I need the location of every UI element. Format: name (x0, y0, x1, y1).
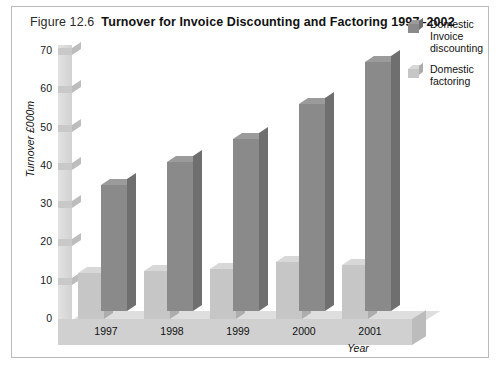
y-axis-tick-label: 10 (26, 274, 52, 286)
x-axis-tick-label-1997: 1997 (76, 325, 136, 337)
y-axis-tick-label: 50 (26, 121, 52, 133)
y-axis-tick (58, 163, 72, 170)
y-axis-tick-cap (72, 233, 81, 246)
legend-item-factoring[interactable]: Domesticfactoring (408, 64, 490, 88)
bar-front-face (365, 62, 391, 311)
y-axis-tick-cap (72, 157, 81, 170)
y-axis-tick-label: 60 (26, 82, 52, 94)
y-axis-tick-cap (72, 195, 81, 208)
bar-invoice-discounting-2000 (299, 104, 325, 311)
bar-front-face (299, 104, 325, 311)
legend-label-line: Invoice (430, 31, 490, 43)
figure-number: Figure 12.6 (30, 15, 94, 29)
x-axis-tick-label-2000: 2000 (274, 325, 334, 337)
bar-invoice-discounting-1998 (167, 162, 193, 311)
figure-title: Turnover for Invoice Discounting and Fac… (101, 15, 454, 29)
y-axis-tick (58, 278, 72, 285)
bar-front-face (167, 162, 193, 311)
y-axis-tick-label: 40 (26, 159, 52, 171)
legend-cube-face (419, 18, 423, 30)
bar-invoice-discounting-1999 (233, 139, 259, 311)
chart-legend: DomesticInvoicediscountingDomesticfactor… (408, 19, 490, 98)
bar-side-face (193, 150, 202, 311)
legend-swatch-cube-icon (408, 20, 422, 33)
y-axis-tick-cap (72, 80, 81, 93)
y-axis-tick (58, 125, 72, 132)
y-axis-tick-label: 20 (26, 235, 52, 247)
legend-label: Domesticfactoring (430, 64, 490, 88)
x-axis-tick-label-2001: 2001 (340, 325, 400, 337)
y-axis-tick-cap (72, 42, 81, 55)
legend-label: DomesticInvoicediscounting (430, 19, 490, 54)
bar-side-face (325, 92, 334, 311)
bar-front-face (101, 185, 127, 311)
x-axis-tick-label-1999: 1999 (208, 325, 268, 337)
legend-cube-face (408, 24, 419, 33)
y-axis-tick-label: 0 (26, 312, 52, 324)
y-axis-title: Turnover £000m (24, 85, 36, 193)
bar-front-face (233, 139, 259, 311)
legend-swatch-cube-icon (408, 65, 422, 78)
y-axis-tick-label: 30 (26, 197, 52, 209)
bar-invoice-discounting-1997 (101, 185, 127, 311)
legend-cube-face (419, 63, 423, 75)
legend-label-line: discounting (430, 43, 490, 55)
legend-label-line: factoring (430, 76, 490, 88)
x-axis-title: Year (328, 342, 388, 354)
bar-side-face (127, 173, 136, 311)
bar-invoice-discounting-2001 (365, 62, 391, 311)
legend-item-invoice-discounting[interactable]: DomesticInvoicediscounting (408, 19, 490, 54)
figure-frame: Figure 12.6 Turnover for Invoice Discoun… (11, 6, 489, 358)
bar-side-face (259, 127, 268, 311)
y-axis-tick (58, 48, 72, 55)
x-axis-tick-label-1998: 1998 (142, 325, 202, 337)
y-axis-tick (58, 86, 72, 93)
y-axis-tick (58, 239, 72, 246)
y-axis-tick-label: 70 (26, 44, 52, 56)
legend-cube-face (408, 69, 419, 78)
y-axis-tick (58, 201, 72, 208)
bar-side-face (391, 50, 400, 311)
y-axis-tick-cap (72, 118, 81, 131)
